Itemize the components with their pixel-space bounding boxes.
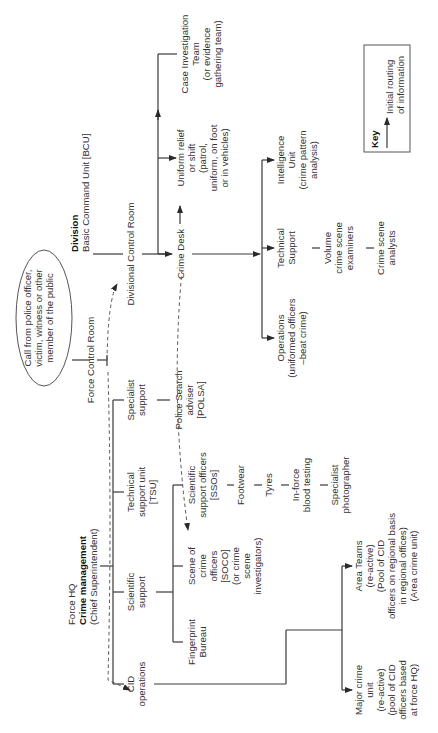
police-organisation-diagram: Call from police officer, victim, witnes… bbox=[0, 0, 438, 733]
svg-text:unit: unit bbox=[364, 682, 375, 698]
svg-text:Major crime: Major crime bbox=[353, 665, 364, 715]
force-control-room: Force Control Room bbox=[85, 317, 96, 403]
svg-text:support officers: support officers bbox=[197, 452, 208, 518]
svg-text:CID: CID bbox=[125, 676, 136, 693]
key-line-2: of information bbox=[395, 56, 406, 114]
svg-text:support: support bbox=[136, 384, 147, 416]
call-source-node: Call from police officer, victim, witnes… bbox=[16, 250, 72, 386]
svg-text:Fingerprint: Fingerprint bbox=[186, 619, 197, 665]
svg-text:Specialist: Specialist bbox=[125, 379, 136, 420]
svg-text:Scientific: Scientific bbox=[125, 573, 136, 612]
svg-text:Divisional Control Room: Divisional Control Room bbox=[125, 203, 136, 306]
major-crime-unit-node: Major crime unit (re-active) (pool of CI… bbox=[353, 660, 419, 720]
dashed-route-to-divisional bbox=[107, 284, 117, 360]
svg-text:(re-active): (re-active) bbox=[364, 544, 375, 587]
svg-text:crime scene: crime scene bbox=[333, 222, 344, 274]
svg-text:crime: crime bbox=[197, 554, 208, 577]
svg-text:[TSU]: [TSU] bbox=[147, 480, 158, 505]
svg-text:(re-active): (re-active) bbox=[375, 668, 386, 711]
svg-text:blood testing: blood testing bbox=[301, 458, 312, 512]
svg-text:(pool of CID: (pool of CID bbox=[386, 664, 397, 715]
volume-examiners-node: Volume crime scene examiners bbox=[322, 222, 355, 274]
photographer-node: Specialist photographer bbox=[329, 456, 351, 514]
svg-text:Volume: Volume bbox=[322, 232, 333, 264]
bcu-subtitle: Basic Command Unit [BCU] bbox=[80, 134, 91, 252]
svg-text:(or evidence: (or evidence bbox=[201, 28, 212, 81]
operations-node: Operations (uniformed officers –beat cri… bbox=[275, 298, 308, 377]
svg-text:(Area crime unit): (Area crime unit) bbox=[408, 531, 419, 602]
svg-text:photographer: photographer bbox=[340, 456, 351, 514]
scientific-support-node: Scientific support bbox=[125, 573, 147, 612]
svg-text:Force Control Room: Force Control Room bbox=[85, 317, 96, 403]
svg-text:Technical: Technical bbox=[125, 472, 136, 512]
svg-text:or shift: or shift bbox=[186, 143, 197, 172]
case-investigation-node: Case Investigation Team (or evidence gat… bbox=[179, 15, 223, 94]
uniform-relief-node: Uniform relief or shift (patrol, uniform… bbox=[175, 124, 230, 191]
soco-node: Scene of crime officers [SOCO] (or crime… bbox=[186, 537, 263, 594]
svg-text:In-force: In-force bbox=[290, 469, 301, 502]
svg-text:officers on regional basis: officers on regional basis bbox=[386, 513, 397, 619]
crime-scene-analysts-node: Crime scene analysts bbox=[375, 221, 397, 275]
area-teams-node: Area Teams (re-active) (Pool of CID offi… bbox=[353, 513, 419, 619]
svg-text:[SSOs]: [SSOs] bbox=[208, 470, 219, 500]
svg-text:Crime Desk: Crime Desk bbox=[175, 229, 186, 279]
cid-operations-node: CID operations bbox=[125, 661, 147, 706]
svg-text:Intelligence: Intelligence bbox=[275, 136, 286, 185]
svg-text:(patrol,: (patrol, bbox=[197, 143, 208, 173]
svg-text:at force HQ): at force HQ) bbox=[408, 664, 419, 716]
svg-text:uniform, on foot: uniform, on foot bbox=[208, 124, 219, 191]
svg-text:(or crime: (or crime bbox=[230, 547, 241, 585]
key-title: Key bbox=[369, 130, 380, 148]
svg-text:officers based: officers based bbox=[397, 660, 408, 720]
svg-text:gathering team): gathering team) bbox=[212, 20, 223, 87]
tyres-node: Tyres bbox=[263, 473, 274, 497]
intelligence-unit-node: Intelligence Unit (crime pattern analysi… bbox=[275, 130, 319, 189]
svg-text:Crime scene: Crime scene bbox=[375, 221, 386, 275]
svg-text:examiners: examiners bbox=[344, 226, 355, 270]
chief-superintendent: (Chief Superintendent) bbox=[88, 528, 99, 625]
svg-text:scene: scene bbox=[241, 553, 252, 579]
division-title: Division bbox=[69, 215, 80, 252]
svg-text:Scene of: Scene of bbox=[186, 547, 197, 585]
svg-text:analysis): analysis) bbox=[308, 141, 319, 179]
svg-text:–beat crime): –beat crime) bbox=[297, 311, 308, 364]
svg-text:operations: operations bbox=[136, 661, 147, 706]
svg-text:Case Investigation: Case Investigation bbox=[179, 15, 190, 94]
svg-text:adviser: adviser bbox=[184, 384, 195, 416]
legend-key: Key Initial routing of information bbox=[364, 45, 410, 152]
sso-node: Scientific support officers [SSOs] bbox=[186, 452, 219, 518]
tsu-node: Technical support unit [TSU] bbox=[125, 467, 158, 517]
svg-text:Operations: Operations bbox=[275, 314, 286, 361]
svg-text:analysts: analysts bbox=[386, 230, 397, 265]
force-hq-title: Force HQ bbox=[66, 583, 77, 625]
svg-text:in regional offices): in regional offices) bbox=[397, 527, 408, 605]
svg-text:Team: Team bbox=[190, 42, 201, 65]
key-line-1: Initial routing bbox=[384, 60, 395, 114]
svg-text:or in vehicles): or in vehicles) bbox=[219, 128, 230, 187]
svg-text:officers: officers bbox=[208, 550, 219, 581]
svg-text:Tyres: Tyres bbox=[263, 473, 274, 497]
svg-text:(crime pattern: (crime pattern bbox=[297, 130, 308, 189]
svg-text:Area Teams: Area Teams bbox=[353, 540, 364, 591]
svg-text:Uniform relief: Uniform relief bbox=[175, 129, 186, 186]
specialist-support-node: Specialist support bbox=[125, 379, 147, 420]
svg-text:support: support bbox=[136, 576, 147, 608]
division-header: Division Basic Command Unit [BCU] bbox=[69, 134, 91, 252]
blood-testing-node: In-force blood testing bbox=[290, 458, 312, 512]
svg-text:Bureau: Bureau bbox=[197, 627, 208, 658]
svg-text:(uniformed officers: (uniformed officers bbox=[286, 298, 297, 377]
svg-text:Support: Support bbox=[286, 231, 297, 265]
crime-desk: Crime Desk bbox=[175, 229, 186, 279]
svg-text:Footwear: Footwear bbox=[235, 464, 246, 505]
svg-text:Scientific: Scientific bbox=[186, 466, 197, 505]
call-line-3: member of the public bbox=[44, 273, 55, 363]
fingerprint-bureau-node: Fingerprint Bureau bbox=[186, 619, 208, 665]
svg-text:[SOCO]: [SOCO] bbox=[219, 549, 230, 583]
svg-text:(Pool of CID: (Pool of CID bbox=[375, 540, 386, 592]
svg-text:[POLSA]: [POLSA] bbox=[195, 381, 206, 418]
svg-text:investigators): investigators) bbox=[252, 537, 263, 594]
crime-management-subtitle: Crime management bbox=[77, 535, 88, 625]
call-line-1: Call from police officer, bbox=[22, 270, 33, 367]
svg-text:Technical: Technical bbox=[275, 228, 286, 268]
footwear-node: Footwear bbox=[235, 464, 246, 505]
